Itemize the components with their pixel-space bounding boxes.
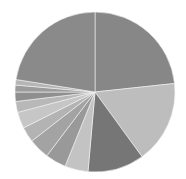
pie-chart <box>0 0 186 179</box>
pie-slice-1 <box>95 12 175 92</box>
pie-slice-13 <box>16 12 95 92</box>
